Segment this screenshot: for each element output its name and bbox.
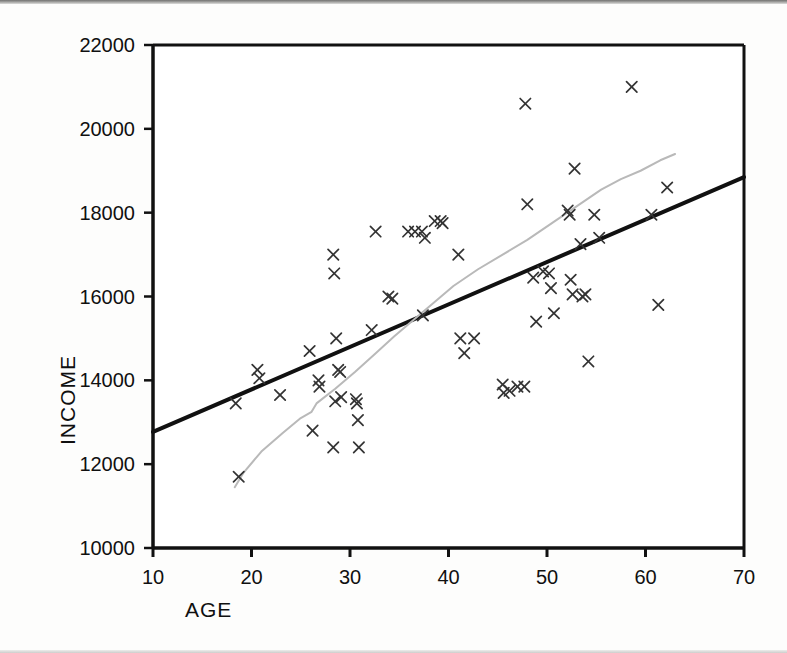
y-tick-label: 18000 [79,202,135,224]
x-tick-label: 20 [240,566,262,588]
y-tick-label: 20000 [79,118,135,140]
y-tick-label: 14000 [79,369,135,391]
figure-canvas: 1000012000140001600018000200002200010203… [0,0,787,653]
y-tick-label: 10000 [79,537,135,559]
x-tick-label: 30 [339,566,361,588]
scatter-plot: 1000012000140001600018000200002200010203… [0,0,787,653]
x-tick-label: 60 [634,566,656,588]
y-tick-label: 12000 [79,453,135,475]
x-axis-title: AGE [185,598,232,621]
y-axis-title: INCOME [56,355,79,445]
y-tick-label: 16000 [79,286,135,308]
y-tick-label: 22000 [79,34,135,56]
x-tick-label: 40 [437,566,459,588]
plot-background [153,45,744,548]
x-tick-label: 10 [142,566,164,588]
x-tick-label: 50 [536,566,558,588]
x-tick-label: 70 [733,566,755,588]
